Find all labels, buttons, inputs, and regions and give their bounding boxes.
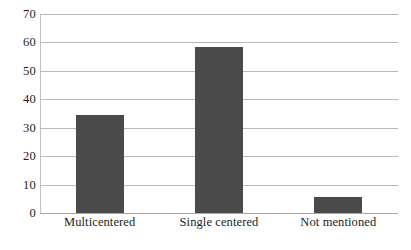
plot-area [40, 14, 398, 213]
x-axis-category-labels: MulticenteredSingle centeredNot mentione… [40, 216, 398, 246]
bar-slot [159, 14, 278, 213]
bar-chart: 010203040506070 MulticenteredSingle cent… [0, 0, 411, 250]
x-label-1: Single centered [180, 216, 259, 230]
y-tick-label-50: 50 [2, 65, 36, 78]
bar[interactable] [314, 197, 362, 213]
bar[interactable] [195, 47, 243, 213]
y-tick-label-0: 0 [2, 207, 36, 220]
y-tick-label-70: 70 [2, 8, 36, 21]
bar[interactable] [76, 115, 124, 213]
y-axis-tick-labels: 010203040506070 [0, 0, 36, 250]
bar-slot [279, 14, 398, 213]
gridline-0 [40, 213, 398, 214]
y-tick-label-10: 10 [2, 178, 36, 191]
bar-slot [40, 14, 159, 213]
y-tick-label-60: 60 [2, 36, 36, 49]
x-label-0: Multicentered [64, 216, 135, 230]
x-label-2: Not mentioned [300, 216, 376, 230]
y-tick-label-40: 40 [2, 93, 36, 106]
y-tick-label-30: 30 [2, 121, 36, 134]
y-tick-label-20: 20 [2, 150, 36, 163]
